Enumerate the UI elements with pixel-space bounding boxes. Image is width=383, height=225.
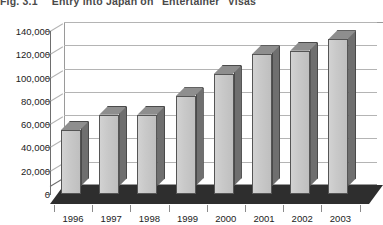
y-axis-tick-label: 120,000: [0, 50, 50, 59]
bar: [137, 115, 157, 194]
y-axis-labels: 140,000120,000100,00080,00060,00040,0002…: [0, 9, 50, 225]
bar-front-face: [176, 96, 196, 194]
figure-number: Fig. 3.1: [0, 0, 38, 7]
bar: [176, 96, 196, 194]
gridline-depth-edge: [50, 93, 63, 102]
y-axis-tick: [46, 124, 51, 125]
x-axis: 19961997199819992000200120022003: [50, 205, 383, 225]
bar-side-face: [196, 88, 204, 186]
x-axis-tick-label: 2000: [207, 213, 245, 224]
y-axis-tick-label: 0: [0, 190, 50, 199]
figure-title-text: Entry into Japan on "Entertainer" Visas: [52, 0, 256, 7]
bar-chart: 140,000120,000100,00080,00060,00040,0002…: [0, 9, 383, 225]
bar: [290, 51, 310, 194]
bar-front-face: [252, 54, 272, 194]
y-axis-tick-label: 60,000: [0, 120, 50, 129]
y-axis-tick: [46, 171, 51, 172]
x-axis-tick-label: 1999: [169, 213, 207, 224]
y-axis-tick: [46, 31, 51, 32]
x-axis-tick-label: 2003: [321, 213, 359, 224]
x-axis-tick: [207, 205, 208, 212]
x-axis-tick-label: 1997: [92, 213, 130, 224]
gridline-depth-edge: [50, 70, 63, 79]
bar: [99, 115, 119, 194]
x-axis-tick-label: 2001: [245, 213, 283, 224]
gridline-depth-edge: [50, 47, 63, 56]
bar: [214, 74, 234, 194]
bar: [252, 54, 272, 194]
bar: [61, 130, 81, 194]
bar-side-face: [81, 122, 89, 186]
gridline: [64, 22, 377, 23]
bar-front-face: [61, 130, 81, 194]
gridline-depth-edge: [50, 23, 63, 32]
bar-front-face: [328, 39, 348, 194]
gridline-depth-edge: [50, 116, 63, 125]
bar-front-face: [137, 115, 157, 194]
x-axis-tick-label: 1998: [130, 213, 168, 224]
x-axis-tick-label: 2002: [283, 213, 321, 224]
y-axis-tick: [46, 101, 51, 102]
x-axis-tick: [92, 205, 93, 212]
y-axis-tick-label: 80,000: [0, 96, 50, 105]
figure-title: Fig. 3.1Entry into Japan on "Entertainer…: [0, 0, 256, 7]
y-axis-tick-label: 100,000: [0, 73, 50, 82]
x-axis-tick-label: 1996: [54, 213, 92, 224]
x-axis-tick: [130, 205, 131, 212]
x-axis-tick: [169, 205, 170, 212]
figure-title-strip: Fig. 3.1Entry into Japan on "Entertainer…: [0, 0, 383, 9]
plot-area: [50, 9, 383, 225]
y-axis-tick-label: 40,000: [0, 143, 50, 152]
bar: [328, 39, 348, 194]
bar-side-face: [310, 43, 318, 186]
x-axis-tick: [360, 205, 361, 212]
bar-front-face: [99, 115, 119, 194]
bar-side-face: [348, 31, 356, 186]
bar-side-face: [234, 66, 242, 186]
x-axis-tick: [54, 205, 55, 212]
bar-side-face: [272, 46, 280, 186]
bar-side-face: [157, 107, 165, 186]
bar-front-face: [214, 74, 234, 194]
bar-side-face: [119, 107, 127, 186]
y-axis-tick-label: 20,000: [0, 166, 50, 175]
y-axis-tick: [46, 54, 51, 55]
x-axis-tick: [321, 205, 322, 212]
y-axis-tick: [46, 147, 51, 148]
y-axis-tick: [46, 78, 51, 79]
y-axis-tick-label: 140,000: [0, 27, 50, 36]
bar-front-face: [290, 51, 310, 194]
x-axis-tick: [245, 205, 246, 212]
x-axis-tick: [283, 205, 284, 212]
